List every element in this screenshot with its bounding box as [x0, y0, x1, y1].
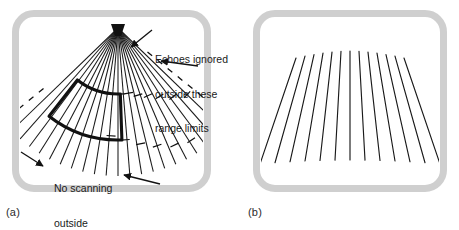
annotation-echoes-line-3: range limits: [155, 123, 228, 135]
panel-b-frame: [253, 10, 447, 192]
annotation-no-scanning: No scanning outside these limits: [54, 160, 112, 230]
caption-b: (b): [248, 206, 262, 218]
annotation-echoes-line-1: Echoes ignored: [155, 54, 228, 66]
annotation-echoes-line-2: outside these: [155, 89, 228, 101]
annotation-noscan-line-2: outside: [54, 218, 112, 230]
annotation-echoes-ignored: Echoes ignored outside these range limit…: [155, 31, 228, 158]
annotation-noscan-line-1: No scanning: [54, 183, 112, 195]
caption-a: (a): [6, 206, 20, 218]
figure-container: Echoes ignored outside these range limit…: [0, 0, 459, 230]
